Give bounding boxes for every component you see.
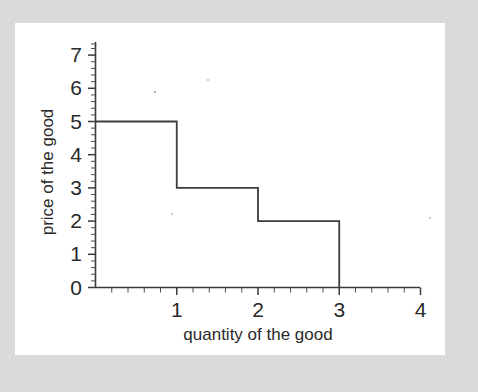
x-tick-label-4: 4	[415, 298, 427, 321]
step-chart: 7 6 5 4 3 2 1 0 1 2 3 4 quantity of the …	[0, 0, 478, 392]
y-tick-label-2: 2	[70, 209, 82, 232]
y-axis-title: price of the good	[38, 109, 57, 236]
x-tick-label-1: 1	[171, 298, 183, 321]
x-tick-label-3: 3	[333, 298, 345, 321]
y-tick-label-7: 7	[70, 43, 82, 66]
x-axis-title: quantity of the good	[183, 325, 332, 344]
y-tick-label-1: 1	[70, 242, 82, 265]
scan-speck	[171, 213, 173, 215]
y-tick-label-4: 4	[70, 143, 82, 166]
y-tick-label-6: 6	[70, 76, 82, 99]
scan-speck	[429, 217, 431, 219]
y-tick-label-3: 3	[70, 176, 82, 199]
figure-outer-background: 7 6 5 4 3 2 1 0 1 2 3 4 quantity of the …	[0, 0, 478, 392]
demand-step-curve	[96, 122, 340, 288]
scan-speck	[207, 79, 209, 81]
x-tick-label-2: 2	[252, 298, 264, 321]
y-tick-label-5: 5	[70, 110, 82, 133]
y-tick-label-0: 0	[70, 276, 82, 299]
y-axis-major-ticks	[88, 55, 96, 287]
x-axis-major-ticks	[177, 288, 421, 296]
scan-speck	[154, 91, 156, 93]
